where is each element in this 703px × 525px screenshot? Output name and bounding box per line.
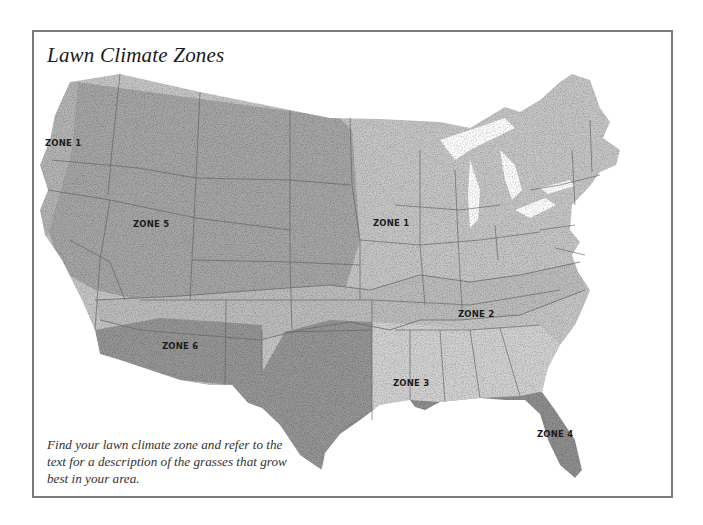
zone-label-4: ZONE 4 — [537, 429, 573, 439]
zone-label-2: ZONE 2 — [458, 309, 494, 319]
zone-label-1-west: ZONE 1 — [45, 138, 81, 148]
zone-label-6: ZONE 6 — [162, 341, 198, 351]
map-caption: Find your lawn climate zone and refer to… — [47, 436, 297, 487]
zone-label-3: ZONE 3 — [393, 378, 429, 388]
zone-label-5: ZONE 5 — [133, 219, 169, 229]
zone-label-1-midwest: ZONE 1 — [373, 218, 409, 228]
